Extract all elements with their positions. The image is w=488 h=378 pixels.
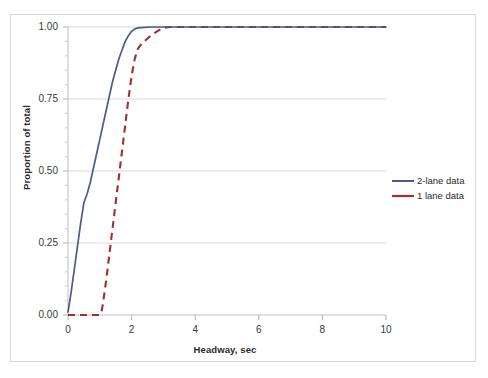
y-tick-label-5: 0.00 <box>18 310 58 320</box>
x-tick-label-2: 2 <box>117 325 147 335</box>
legend-swatch-dashed-icon <box>392 191 414 201</box>
chart-legend: 2-lane data 1 lane data <box>392 173 484 203</box>
y-tick-label-1: 1.00 <box>18 22 58 32</box>
y-tick-label-4: 0.25 <box>18 238 58 248</box>
chart-container: 1.00 0.75 0.50 0.25 0.00 0 2 4 6 8 10 Pr… <box>0 0 488 378</box>
y-axis <box>63 27 68 315</box>
x-tick-label-5: 8 <box>307 325 337 335</box>
legend-swatch-solid-icon <box>392 176 414 186</box>
legend-label-1-lane-data: 1 lane data <box>417 190 464 201</box>
legend-item-1-lane-data[interactable]: 1 lane data <box>392 188 484 203</box>
x-tick-label-6: 10 <box>371 325 401 335</box>
legend-label-2-lane-data: 2-lane data <box>417 175 465 186</box>
x-tick-label-4: 6 <box>244 325 274 335</box>
x-axis-title: Headway, sec <box>60 344 390 355</box>
legend-item-2-lane-data[interactable]: 2-lane data <box>392 173 484 188</box>
y-axis-title: Proportion of total <box>21 78 32 218</box>
x-tick-label-3: 4 <box>180 325 210 335</box>
series-2-lane-data <box>68 27 386 312</box>
x-tick-label-1: 0 <box>53 325 83 335</box>
x-axis <box>68 315 386 320</box>
